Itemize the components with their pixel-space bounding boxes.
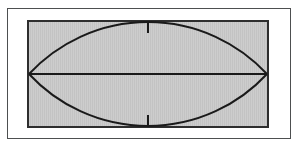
lens-figure: [29, 22, 267, 126]
shaded-rectangle: [27, 20, 269, 128]
diagram-canvas: [0, 0, 300, 152]
